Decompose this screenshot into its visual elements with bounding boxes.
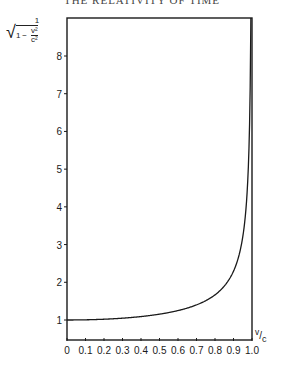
- y-tick-label: 5: [56, 164, 62, 175]
- x-tick-label: 0.1: [79, 345, 93, 356]
- y-tick-label: 3: [56, 240, 62, 251]
- plot-border: [67, 18, 252, 340]
- y-tick-label: 2: [56, 277, 62, 288]
- y-tick-label: 7: [56, 89, 62, 100]
- x-tick-label: 1.0: [245, 345, 259, 356]
- x-tick-label: 0: [64, 345, 70, 356]
- x-tick-label: 0.7: [190, 345, 204, 356]
- chart-canvas: 12345678 00.10.20.30.40.50.60.70.80.91.0: [0, 0, 284, 366]
- x-tick-label: 0.3: [116, 345, 130, 356]
- x-axis-label: v/c: [255, 327, 266, 344]
- x-tick-label: 0.4: [134, 345, 148, 356]
- y-axis-ticks: 12345678: [56, 51, 67, 326]
- x-label-c: c: [262, 334, 267, 344]
- x-tick-label: 0.6: [171, 345, 185, 356]
- y-tick-label: 4: [56, 202, 62, 213]
- lorentz-curve: [67, 18, 251, 320]
- x-tick-label: 0.5: [153, 345, 167, 356]
- x-tick-label: 0.2: [97, 345, 111, 356]
- y-tick-label: 8: [56, 51, 62, 62]
- plot-frame: [67, 18, 252, 340]
- x-axis-ticks: 00.10.20.30.40.50.60.70.80.91.0: [64, 338, 259, 356]
- y-tick-label: 1: [56, 315, 62, 326]
- x-tick-label: 0.9: [227, 345, 241, 356]
- x-tick-label: 0.8: [208, 345, 222, 356]
- y-tick-label: 6: [56, 126, 62, 137]
